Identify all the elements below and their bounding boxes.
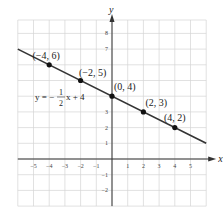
y-tick-label: 2	[105, 125, 108, 131]
equation-label: y = − 1 2 x + 4	[35, 88, 85, 108]
point-label: (2, 3)	[145, 97, 167, 109]
point-label: (0, 4)	[114, 81, 136, 93]
x-tick-label: −3	[62, 163, 68, 169]
line-chart: −5−4−3−2−112345−2−112378 (−4, 6)(−2, 5)(…	[0, 0, 223, 212]
equation-prefix: y = −	[35, 92, 54, 102]
y-axis-arrow-icon	[110, 14, 115, 22]
y-axis-label: y	[108, 4, 114, 15]
x-tick-label: −2	[77, 163, 83, 169]
x-tick-label: 2	[142, 163, 145, 169]
data-point	[47, 62, 52, 67]
point-label: (4, 2)	[164, 112, 186, 124]
fraction-numerator: 1	[59, 88, 63, 97]
y-tick-label: −2	[102, 187, 108, 193]
equation-suffix: x + 4	[66, 92, 85, 102]
y-tick-label: 8	[105, 30, 108, 36]
x-tick-label: −1	[93, 163, 99, 169]
x-axis-arrow-icon	[208, 157, 216, 162]
y-tick-label: −1	[102, 172, 108, 178]
x-tick-label: 1	[126, 163, 129, 169]
y-tick-label: 7	[105, 46, 108, 52]
x-tick-label: 5	[189, 163, 192, 169]
axes	[18, 14, 216, 206]
point-label: (−4, 6)	[33, 50, 60, 62]
data-points: (−4, 6)(−2, 5)(0, 4)(2, 3)(4, 2)	[33, 50, 186, 130]
point-label: (−2, 5)	[79, 67, 106, 79]
y-tick-label: 3	[105, 109, 108, 115]
data-point	[172, 125, 177, 130]
x-tick-label: −4	[46, 163, 52, 169]
x-tick-label: 3	[158, 163, 161, 169]
data-point	[78, 78, 83, 83]
x-tick-label: −5	[30, 163, 36, 169]
y-tick-label: 1	[105, 140, 108, 146]
x-tick-label: 4	[173, 163, 176, 169]
data-point	[109, 94, 114, 99]
fraction-denominator: 2	[59, 99, 63, 108]
data-point	[141, 109, 146, 114]
x-axis-label: x	[217, 153, 223, 164]
